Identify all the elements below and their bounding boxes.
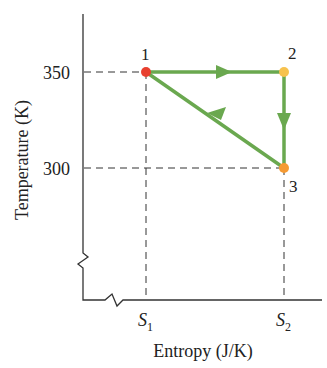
point-2 — [279, 67, 289, 77]
guide-lines — [84, 72, 284, 300]
x-tick-s2: S2 — [276, 310, 291, 334]
arrow-down-icon — [277, 113, 291, 130]
point-1-label: 1 — [141, 45, 150, 64]
y-tick-300: 300 — [43, 159, 70, 179]
cycle-path — [146, 72, 284, 168]
point-3 — [279, 163, 289, 173]
x-tick-s1: S1 — [138, 310, 153, 334]
ts-diagram: 1 2 3 350 300 S1 S2 Entropy (J/K) Temper… — [0, 0, 327, 368]
point-1 — [141, 67, 151, 77]
point-3-label: 3 — [289, 177, 298, 196]
x-axis-title: Entropy (J/K) — [153, 341, 252, 362]
arrow-right-icon — [216, 65, 232, 79]
point-2-label: 2 — [288, 44, 297, 63]
y-axis-title: Temperature (K) — [12, 100, 33, 220]
y-tick-350: 350 — [43, 63, 70, 83]
